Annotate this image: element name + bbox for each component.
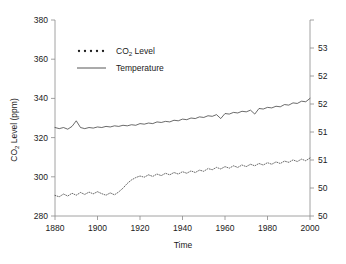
legend-label-temperature: Temperature [116,63,164,73]
x-tick-label: 1980 [258,223,277,233]
y-tick-label-right: 51 [318,127,328,137]
y-axis-right-ticks: 50505151525253 [310,20,328,221]
y-tick-label-right: 52 [318,99,328,109]
y-tick-label-left: 300 [34,172,48,182]
legend-label-co2-main: CO [116,46,129,56]
x-tick-label: 1900 [88,223,107,233]
x-tick-label: 1960 [216,223,235,233]
legend-entry-co2: CO2 Level [78,46,155,57]
y-axis-title: CO2 Level (ppm) [9,98,20,162]
plot-frame [55,20,310,216]
y-tick-label-right: 52 [318,71,328,81]
y-tick-label-left: 360 [34,54,48,64]
y-tick-label-right: 50 [318,211,328,221]
y-axis-title-main: CO [9,149,19,162]
x-tick-label: 2000 [301,223,320,233]
y-tick-label-right: 50 [318,183,328,193]
legend-entry-temperature: Temperature [77,63,164,73]
y-tick-label-left: 380 [34,15,48,25]
legend-marker-co2-dots [78,50,104,52]
series-line-temperature [55,98,310,129]
x-axis-ticks: 1880190019201940196019802000 [46,216,320,233]
y-tick-label-right: 53 [318,43,328,53]
series-line-co2 [55,158,310,197]
data-series-group [55,98,310,196]
y-tick-label-left: 280 [34,211,48,221]
y-tick-label-left: 340 [34,93,48,103]
legend-label-co2-rest: Level [132,46,155,56]
legend: CO2 Level Temperature [77,46,164,73]
x-tick-label: 1880 [46,223,65,233]
y-axis-left-ticks: 280300320340360380 [34,15,55,221]
y-tick-label-right: 51 [318,155,328,165]
y-tick-label-left: 320 [34,133,48,143]
legend-label-co2: CO2 Level [116,46,155,57]
y-axis-title-rest: Level (ppm) [9,98,19,145]
co2-temperature-chart: 280300320340360380 50505151525253 188019… [0,0,346,264]
x-tick-label: 1940 [173,223,192,233]
x-tick-label: 1920 [131,223,150,233]
x-axis-title: Time [174,240,193,250]
chart-canvas: 280300320340360380 50505151525253 188019… [0,0,346,264]
